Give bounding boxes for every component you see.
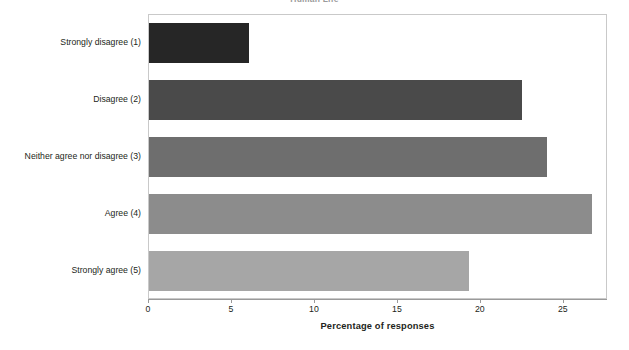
x-axis-tick-label: 10 bbox=[309, 304, 319, 314]
bar-track bbox=[149, 23, 607, 63]
x-axis-tick-label: 5 bbox=[229, 304, 234, 314]
x-axis-tick-label: 25 bbox=[558, 304, 568, 314]
bar-chart: Human Life Strongly disagree (1)Disagree… bbox=[0, 0, 629, 350]
bar bbox=[149, 194, 592, 234]
x-axis-tick bbox=[148, 299, 149, 303]
x-axis-tick bbox=[563, 299, 564, 303]
bar-row: Disagree (2) bbox=[0, 71, 629, 128]
x-axis-tick bbox=[231, 299, 232, 303]
bar bbox=[149, 137, 547, 177]
bar-track bbox=[149, 137, 607, 177]
bar-row: Neither agree nor disagree (3) bbox=[0, 128, 629, 185]
bar-row: Agree (4) bbox=[0, 185, 629, 242]
bar bbox=[149, 23, 249, 63]
x-axis-tick-label: 15 bbox=[392, 304, 402, 314]
y-axis-category-label: Strongly agree (5) bbox=[71, 266, 141, 276]
x-axis-tick bbox=[314, 299, 315, 303]
bar-row: Strongly agree (5) bbox=[0, 242, 629, 299]
x-axis-tick-label: 20 bbox=[475, 304, 485, 314]
bar-track bbox=[149, 194, 607, 234]
y-axis-category-label: Neither agree nor disagree (3) bbox=[25, 152, 141, 162]
y-axis-category-label: Strongly disagree (1) bbox=[60, 38, 141, 48]
bar bbox=[149, 80, 522, 120]
bar-series: Strongly disagree (1)Disagree (2)Neither… bbox=[0, 14, 629, 299]
x-axis-tick bbox=[397, 299, 398, 303]
bar-row: Strongly disagree (1) bbox=[0, 14, 629, 71]
chart-title: Human Life bbox=[0, 0, 629, 3]
x-axis-title: Percentage of responses bbox=[148, 321, 607, 331]
x-axis-tick-label: 0 bbox=[146, 304, 151, 314]
bar-track bbox=[149, 251, 607, 291]
bar bbox=[149, 251, 469, 291]
bar-track bbox=[149, 80, 607, 120]
x-axis-tick bbox=[480, 299, 481, 303]
y-axis-category-label: Disagree (2) bbox=[93, 95, 141, 105]
x-axis-line bbox=[148, 299, 607, 300]
y-axis-category-label: Agree (4) bbox=[105, 209, 141, 219]
